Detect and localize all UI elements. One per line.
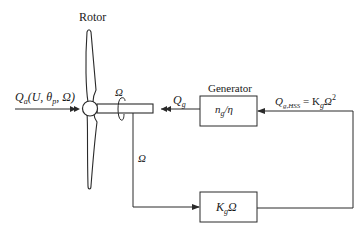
generator-torque-symbol: Q bbox=[173, 93, 182, 107]
rotor-shaft bbox=[97, 104, 153, 113]
rotor-blade-upper bbox=[86, 30, 96, 102]
diagram-lines bbox=[0, 0, 364, 230]
aero-torque-args-end: , Ω) bbox=[56, 90, 75, 104]
hss-equals: = K bbox=[300, 95, 320, 107]
rotor-hub-icon bbox=[83, 101, 98, 116]
controller-k: K bbox=[216, 200, 224, 214]
hss-torque-subscript: g,HSS bbox=[283, 102, 300, 110]
controller-formula: KgΩ bbox=[216, 201, 237, 216]
generator-title: Generator bbox=[208, 83, 252, 94]
aero-torque-label: Qa(U, θp, Ω) bbox=[15, 91, 75, 106]
feedback-speed-label: Ω bbox=[138, 153, 146, 164]
wind-turbine-control-diagram: Rotor Qa(U, θp, Ω) Ω Qg Generator ng/η Q… bbox=[0, 0, 364, 230]
generator-torque-label: Qg bbox=[173, 94, 186, 109]
controller-omega: Ω bbox=[228, 200, 237, 214]
hss-omega: Ω bbox=[324, 95, 332, 107]
aero-torque-args: (U, θ bbox=[28, 90, 53, 104]
rotor-blade-lower bbox=[87, 114, 97, 189]
generator-torque-subscript: g bbox=[182, 100, 186, 109]
shaft-speed-label: Ω bbox=[115, 87, 123, 98]
hss-torque-label: Qg,HSS = KgΩ2 bbox=[275, 94, 336, 110]
hss-power: 2 bbox=[332, 93, 336, 102]
hss-torque-symbol: Q bbox=[275, 95, 283, 107]
generator-formula: ng/η bbox=[215, 104, 233, 118]
formula-rest: /η bbox=[225, 103, 234, 115]
rotor-label: Rotor bbox=[79, 11, 106, 23]
hss-torque-line bbox=[258, 111, 353, 208]
aero-torque-symbol: Q bbox=[15, 90, 24, 104]
